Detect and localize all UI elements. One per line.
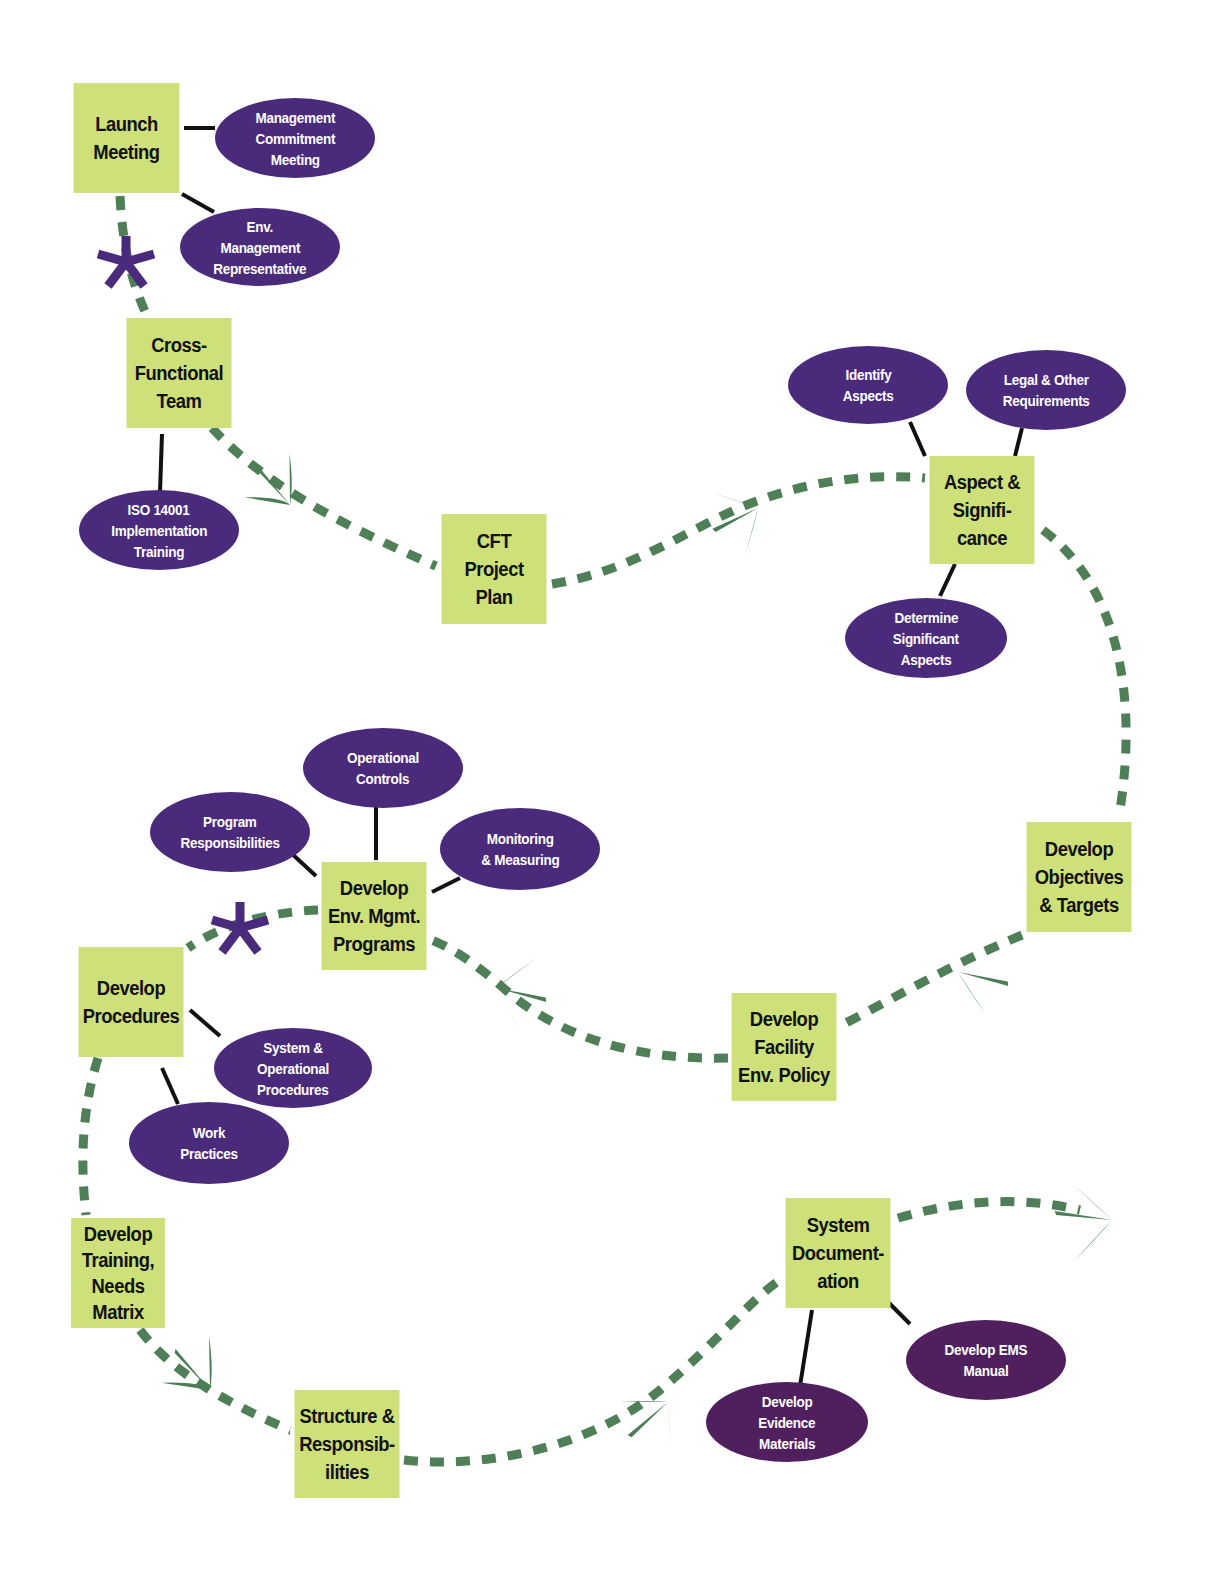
step-label-line: cance xyxy=(957,524,1007,552)
subtask-management-commitment-meeting: Management Commitment Meeting xyxy=(215,98,375,178)
subtask-label-line: Practices xyxy=(180,1143,238,1164)
step-label-line: Aspect & xyxy=(944,468,1020,496)
step-label-line: Training, xyxy=(82,1247,155,1273)
subtask-label-line: Develop EMS xyxy=(945,1339,1028,1360)
step-develop-objectives-targets: Develop Objectives & Targets xyxy=(1027,822,1132,932)
subtask-label-line: Manual xyxy=(964,1360,1009,1381)
connector-procedures-system xyxy=(190,1010,220,1036)
subtask-label-line: Controls xyxy=(356,768,409,789)
step-structure-responsibilities: Structure & Responsib- ilities xyxy=(295,1390,400,1498)
subtask-label-line: System & xyxy=(263,1037,322,1058)
step-label-line: Objectives xyxy=(1035,863,1123,891)
step-cft-project-plan: CFT Project Plan xyxy=(442,514,547,624)
subtask-label-line: Develop xyxy=(762,1391,813,1412)
subtask-system-operational-procedures: System & Operational Procedures xyxy=(214,1028,372,1108)
subtask-env-management-representative: Env. Management Representative xyxy=(180,208,340,286)
arrow-icon xyxy=(701,480,772,563)
flow-aspect-to-objectives xyxy=(1043,530,1126,810)
step-label-line: Document- xyxy=(792,1239,884,1267)
connector-aspect-identify xyxy=(910,422,925,456)
step-label-line: Env. Policy xyxy=(738,1061,830,1089)
subtask-monitoring-measuring: Monitoring & Measuring xyxy=(440,808,600,890)
step-label-line: Matrix xyxy=(92,1299,143,1325)
connector-aspect-legal xyxy=(1015,428,1022,456)
step-label-line: Needs xyxy=(92,1273,145,1299)
subtask-legal-other-requirements: Legal & Other Requirements xyxy=(966,350,1126,430)
subtask-label-line: Operational xyxy=(347,747,419,768)
subtask-identify-aspects: Identify Aspects xyxy=(788,346,948,424)
flow-cft-to-plan xyxy=(212,428,436,566)
arrow-icon xyxy=(1050,1183,1114,1264)
flow-documentation-out xyxy=(898,1202,1080,1218)
step-develop-procedures: Develop Procedures xyxy=(79,947,184,1057)
subtask-determine-significant-aspects: Determine Significant Aspects xyxy=(845,598,1007,678)
step-launch-meeting: Launch Meeting xyxy=(74,83,180,193)
subtask-label-line: Procedures xyxy=(257,1079,329,1100)
step-label-line: Meeting xyxy=(93,138,159,166)
subtask-label-line: Management xyxy=(220,237,300,258)
connector-aspect-determine xyxy=(940,564,955,596)
step-label-line: Develop xyxy=(97,974,165,1002)
step-label-line: Develop xyxy=(84,1221,152,1247)
step-label-line: Responsib- xyxy=(299,1430,395,1458)
subtask-iso-14001-implementation-training: ISO 14001 Implementation Training xyxy=(79,490,239,570)
subtask-label-line: Implementation xyxy=(111,520,207,541)
subtask-label-line: Materials xyxy=(759,1433,815,1454)
subtask-label-line: Commitment xyxy=(255,128,335,149)
step-aspect-significance: Aspect & Signifi- cance xyxy=(930,456,1035,564)
step-label-line: Functional xyxy=(135,359,223,387)
step-develop-facility-env-policy: Develop Facility Env. Policy xyxy=(732,993,837,1101)
step-label-line: Plan xyxy=(475,583,512,611)
subtask-label-line: Monitoring xyxy=(486,828,553,849)
subtask-label-line: ISO 14001 xyxy=(128,499,190,520)
subtask-label-line: Responsibilities xyxy=(180,832,279,853)
subtask-label-line: Env. xyxy=(247,216,273,237)
step-label-line: ation xyxy=(817,1267,859,1295)
subtask-label-line: Identify xyxy=(845,364,891,385)
subtask-work-practices: Work Practices xyxy=(129,1102,289,1184)
subtask-operational-controls: Operational Controls xyxy=(303,728,463,808)
connector-launch-envrep xyxy=(182,194,214,212)
step-label-line: & Targets xyxy=(1039,891,1118,919)
subtask-label-line: Evidence xyxy=(758,1412,815,1433)
step-develop-env-mgmt-programs: Develop Env. Mgmt. Programs xyxy=(322,862,427,970)
flow-plan-to-aspect xyxy=(552,477,925,584)
subtask-label-line: Aspects xyxy=(901,649,952,670)
asterisk-marker-icon xyxy=(98,236,154,286)
subtask-label-line: Operational xyxy=(257,1058,329,1079)
subtask-develop-evidence-materials: Develop Evidence Materials xyxy=(706,1382,868,1462)
step-label-line: Procedures xyxy=(83,1002,180,1030)
step-label-line: Programs xyxy=(333,930,415,958)
step-label-line: Facility xyxy=(754,1033,814,1061)
step-label-line: ilities xyxy=(325,1458,369,1486)
subtask-label-line: Management xyxy=(255,107,335,128)
subtask-label-line: Training xyxy=(134,541,184,562)
asterisk-marker-icon xyxy=(212,902,268,952)
step-label-line: Develop xyxy=(750,1005,818,1033)
subtask-label-line: Requirements xyxy=(1003,390,1090,411)
flow-training-to-structure xyxy=(140,1330,290,1430)
step-label-line: Develop xyxy=(1045,835,1113,863)
step-label-line: Structure & xyxy=(299,1402,394,1430)
step-label-line: Signifi- xyxy=(953,496,1012,524)
flow-procedures-to-training xyxy=(83,1058,98,1215)
subtask-program-responsibilities: Program Responsibilities xyxy=(150,792,310,872)
subtask-label-line: Representative xyxy=(213,258,306,279)
subtask-label-line: Aspects xyxy=(843,385,894,406)
connector-doc-evidence xyxy=(800,1310,812,1386)
step-label-line: CFT xyxy=(477,527,511,555)
connector-procedures-work xyxy=(162,1068,178,1104)
ems-implementation-flow-diagram: Launch Meeting Cross- Functional Team CF… xyxy=(0,0,1218,1588)
connector-programs-monitoring xyxy=(432,878,460,892)
subtask-label-line: Program xyxy=(203,811,257,832)
subtask-label-line: Work xyxy=(193,1122,225,1143)
arrow-icon xyxy=(948,933,1021,1018)
step-system-documentation: System Document- ation xyxy=(786,1198,891,1308)
subtask-label-line: Significant xyxy=(893,628,959,649)
step-label-line: System xyxy=(807,1211,870,1239)
step-develop-training-needs-matrix: Develop Training, Needs Matrix xyxy=(71,1218,165,1328)
connector-cft-iso xyxy=(160,434,162,492)
subtask-label-line: Meeting xyxy=(270,149,319,170)
flow-policy-to-programs xyxy=(432,940,728,1058)
step-label-line: Develop xyxy=(340,874,408,902)
